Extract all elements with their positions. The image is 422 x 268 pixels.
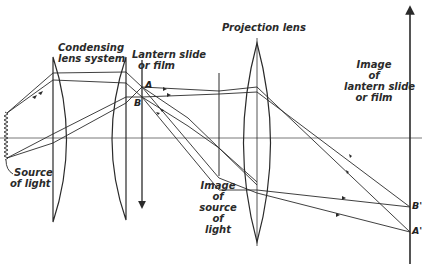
point-b-label: B xyxy=(134,97,141,108)
projection-lens-label: Projection lens xyxy=(222,22,294,33)
condensing-label-line-1: Condensing xyxy=(58,42,120,53)
point-a-prime-label: A' xyxy=(412,225,422,236)
image-slide-line-1: Image xyxy=(344,59,404,70)
condensing-lens-label: Condensing lens system xyxy=(58,42,120,64)
light-source-filament-icon xyxy=(4,112,8,160)
source-label-line-1: Source xyxy=(10,167,52,178)
point-b-prime-label: B' xyxy=(412,200,422,211)
image-source-line-5: light xyxy=(198,224,238,235)
image-of-slide-label: Image of lantern slide or film xyxy=(344,59,404,103)
image-source-line-4: of xyxy=(198,213,238,224)
image-slide-line-2: of xyxy=(344,70,404,81)
lantern-label-line-1: Lantern slide xyxy=(132,49,200,60)
condensing-label-line-2: lens system xyxy=(58,53,120,64)
image-source-line-1: Image xyxy=(198,180,238,191)
ray-direction-arrows xyxy=(32,87,352,217)
figure-caption xyxy=(140,262,290,268)
source-label-line-2: of light xyxy=(10,178,52,189)
image-of-source-label: Image of source of light xyxy=(198,180,238,235)
image-slide-line-4: or film xyxy=(344,92,404,103)
lantern-label-line-2: or film xyxy=(132,60,200,71)
condensing-lens-2 xyxy=(112,57,126,220)
image-source-line-3: source xyxy=(198,202,238,213)
source-of-light-label: Source of light xyxy=(10,167,52,189)
point-a-label: A xyxy=(145,79,152,90)
lantern-slide-label: Lantern slide or film xyxy=(132,49,200,71)
image-source-line-2: of xyxy=(198,191,238,202)
image-slide-line-3: lantern slide xyxy=(344,81,404,92)
